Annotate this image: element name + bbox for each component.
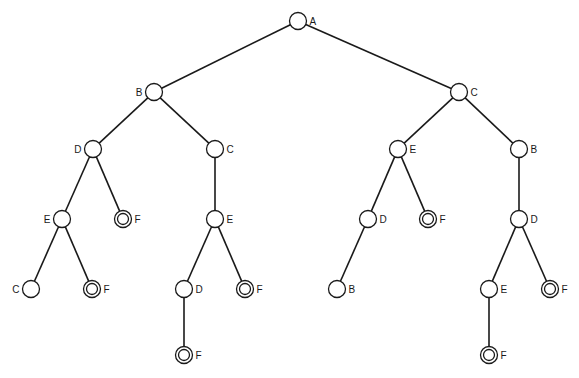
tree-edge bbox=[492, 227, 515, 281]
goal-node: F bbox=[176, 347, 202, 364]
node-label: F bbox=[257, 284, 263, 295]
node-label: D bbox=[74, 144, 81, 155]
tree-node: E bbox=[44, 211, 71, 228]
tree-node: C bbox=[207, 141, 234, 158]
tree-edge bbox=[65, 157, 89, 211]
tree-node: E bbox=[390, 141, 417, 158]
tree-edge bbox=[187, 227, 211, 281]
node-label: F bbox=[562, 284, 568, 295]
node-label: E bbox=[227, 214, 234, 225]
node-circle bbox=[23, 281, 40, 298]
tree-edge bbox=[340, 227, 364, 281]
node-label: C bbox=[227, 144, 234, 155]
tree-node: C bbox=[451, 84, 478, 101]
node-circle bbox=[207, 211, 224, 228]
node-circle bbox=[54, 211, 71, 228]
node-label: B bbox=[531, 144, 538, 155]
node-label: D bbox=[531, 214, 538, 225]
tree-node: D bbox=[176, 281, 203, 298]
goal-node: F bbox=[115, 211, 141, 228]
node-circle bbox=[176, 281, 193, 298]
tree-edge bbox=[65, 227, 88, 281]
node-label: D bbox=[196, 284, 203, 295]
node-circle bbox=[481, 281, 498, 298]
node-circle bbox=[360, 211, 377, 228]
node-circle bbox=[290, 13, 307, 30]
tree-edge bbox=[162, 25, 291, 88]
goal-node: F bbox=[84, 281, 110, 298]
tree-edge bbox=[465, 98, 513, 143]
tree-edge bbox=[404, 98, 453, 143]
node-label: B bbox=[349, 284, 356, 295]
node-label: E bbox=[410, 144, 417, 155]
node-label: F bbox=[196, 350, 202, 361]
edges-layer bbox=[34, 24, 546, 346]
node-circle bbox=[511, 211, 528, 228]
node-label: B bbox=[136, 87, 143, 98]
node-circle bbox=[390, 141, 407, 158]
goal-node: F bbox=[420, 211, 446, 228]
tree-node: C bbox=[12, 281, 39, 298]
tree-edge bbox=[34, 227, 58, 281]
tree-node: D bbox=[360, 211, 387, 228]
goal-node: F bbox=[481, 347, 507, 364]
tree-node: B bbox=[511, 141, 538, 158]
tree-edge bbox=[160, 98, 209, 143]
node-label: D bbox=[380, 214, 387, 225]
node-label: F bbox=[440, 214, 446, 225]
node-circle bbox=[85, 141, 102, 158]
node-circle bbox=[207, 141, 224, 158]
node-circle bbox=[511, 141, 528, 158]
tree-edge bbox=[306, 24, 451, 88]
tree-node: E bbox=[207, 211, 234, 228]
search-tree-diagram: ABCDCEBEFEDFDCFDFBEFFF bbox=[0, 0, 579, 378]
tree-edge bbox=[522, 227, 546, 281]
node-label: C bbox=[12, 284, 19, 295]
tree-node: B bbox=[329, 281, 356, 298]
tree-node: E bbox=[481, 281, 508, 298]
node-label: E bbox=[44, 214, 51, 225]
node-label: F bbox=[501, 350, 507, 361]
node-circle bbox=[146, 84, 163, 101]
node-circle bbox=[329, 281, 346, 298]
tree-edge bbox=[96, 157, 119, 211]
tree-edge bbox=[401, 157, 424, 211]
node-label: F bbox=[104, 284, 110, 295]
node-circle bbox=[451, 84, 468, 101]
tree-edge bbox=[99, 98, 148, 143]
node-label: A bbox=[310, 16, 317, 27]
goal-node: F bbox=[542, 281, 568, 298]
goal-node: F bbox=[237, 281, 263, 298]
nodes-layer: ABCDCEBEFEDFDCFDFBEFFF bbox=[12, 13, 567, 364]
tree-edge bbox=[218, 227, 241, 281]
node-label: F bbox=[135, 214, 141, 225]
tree-edge bbox=[371, 157, 394, 211]
node-label: E bbox=[501, 284, 508, 295]
tree-node: D bbox=[511, 211, 538, 228]
node-label: C bbox=[471, 87, 478, 98]
tree-node: B bbox=[136, 84, 163, 101]
tree-node: D bbox=[74, 141, 101, 158]
